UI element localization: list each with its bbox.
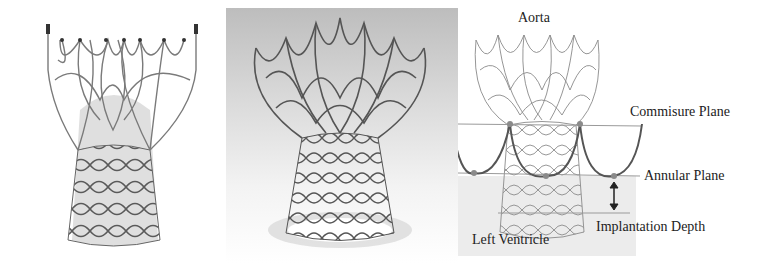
label-annular-plane: Annular Plane: [644, 168, 724, 184]
label-implantation-depth: Implantation Depth: [596, 219, 705, 235]
implantation-schematic: Aorta Commisure Plane Annular Plane Impl…: [458, 0, 776, 269]
stent-with-leaflets-image: [0, 0, 226, 269]
stent-frame-render: [226, 8, 458, 263]
label-commissure-plane: Commisure Plane: [630, 104, 730, 120]
stent-frame-illustration: [226, 8, 458, 263]
label-aorta: Aorta: [518, 10, 550, 26]
stent-leaflet-illustration: [0, 0, 226, 269]
label-left-ventricle: Left Ventricle: [472, 232, 549, 248]
